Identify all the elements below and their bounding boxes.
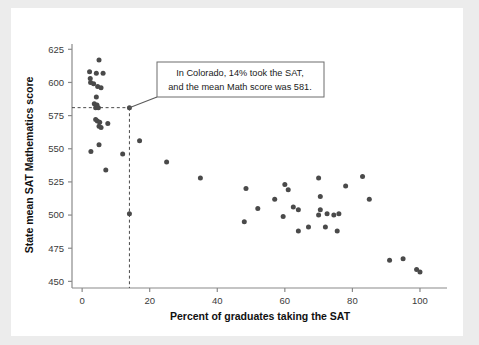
y-tick-label: 475	[48, 243, 64, 254]
scatter-point	[127, 211, 132, 216]
scatter-point	[387, 258, 392, 263]
scatter-point	[282, 182, 287, 187]
x-tick-label: 80	[347, 295, 358, 306]
scatter-point	[306, 225, 311, 230]
scatter-point	[367, 197, 372, 202]
scatter-point	[198, 175, 203, 180]
x-tick-label: 100	[412, 295, 428, 306]
scatter-point	[120, 152, 125, 157]
scatter-point	[94, 95, 99, 100]
y-tick-label: 450	[48, 276, 64, 287]
y-tick-label: 550	[48, 143, 64, 154]
scatter-point	[331, 213, 336, 218]
scatter-point	[97, 142, 102, 147]
x-tick-label: 20	[144, 295, 155, 306]
scatter-point	[325, 211, 330, 216]
x-tick-label: 0	[79, 295, 84, 306]
scatter-point	[360, 174, 365, 179]
scatter-point	[417, 270, 422, 275]
scatter-point	[96, 105, 101, 110]
scatter-point	[87, 69, 92, 74]
scatter-point	[243, 186, 248, 191]
scatter-point	[272, 197, 277, 202]
plot-svg: State mean SAT Mathematics score Percent…	[0, 0, 479, 345]
scatter-point	[99, 85, 104, 90]
scatter-point	[101, 71, 106, 76]
scatter-chart: State mean SAT Mathematics score Percent…	[0, 0, 479, 345]
y-axis-title: State mean SAT Mathematics score	[23, 77, 35, 254]
scatter-point	[296, 228, 301, 233]
annotation-callout: In Colorado, 14% took the SAT, and the m…	[129, 62, 324, 108]
scatter-point	[336, 211, 341, 216]
scatter-point	[164, 160, 169, 165]
scatter-point	[255, 206, 260, 211]
x-tick-label: 40	[212, 295, 223, 306]
callout-line-2: and the mean Math score was 581.	[168, 82, 312, 92]
y-tick-label: 500	[48, 209, 64, 220]
y-tick-label: 525	[48, 176, 64, 187]
scatter-point	[296, 207, 301, 212]
x-axis-title: Percent of graduates taking the SAT	[170, 310, 351, 322]
scatter-point	[316, 213, 321, 218]
scatter-point	[137, 138, 142, 143]
scatter-point	[316, 175, 321, 180]
scatter-point	[318, 194, 323, 199]
scatter-point	[401, 256, 406, 261]
scatter-point	[105, 121, 110, 126]
callout-line-1: In Colorado, 14% took the SAT,	[176, 68, 304, 78]
scatter-point	[97, 57, 102, 62]
y-axis-title-group: State mean SAT Mathematics score	[23, 77, 35, 254]
callout-leader-line	[129, 97, 157, 108]
scatter-point	[94, 71, 99, 76]
scatter-point	[88, 149, 93, 154]
scatter-point	[291, 205, 296, 210]
y-tick-label: 600	[48, 77, 64, 88]
scatter-point	[343, 183, 348, 188]
scatter-point	[103, 167, 108, 172]
scatter-point	[286, 187, 291, 192]
y-tick-label: 575	[48, 110, 64, 121]
x-axis-title-group: Percent of graduates taking the SAT	[170, 310, 351, 322]
scatter-point	[318, 207, 323, 212]
x-tick-label: 60	[280, 295, 291, 306]
x-axis-ticks: 020406080100	[79, 288, 427, 306]
scatter-point	[242, 219, 247, 224]
scatter-point	[281, 214, 286, 219]
scatter-point	[99, 125, 104, 130]
scatter-point	[335, 228, 340, 233]
scatter-point	[323, 225, 328, 230]
y-tick-label: 625	[48, 44, 64, 55]
figure-page: State mean SAT Mathematics score Percent…	[0, 0, 479, 345]
annotation-guide-lines	[72, 108, 129, 288]
y-axis-ticks: 450475500525550575600625	[48, 44, 72, 287]
